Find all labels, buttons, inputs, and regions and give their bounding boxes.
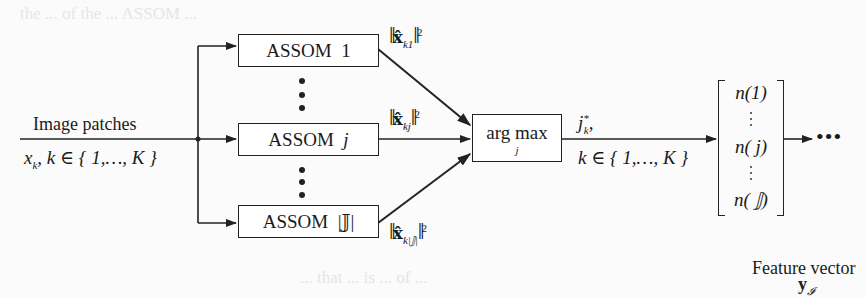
norm-label-J: ‖x̂k|𝕁|‖2 [389,218,427,247]
assom-block-index: |𝕁| [338,210,355,233]
norm-label-1: ‖x̂k1‖2 [389,22,423,50]
input-index-set: xk, k ∈ { 1,…, K } [24,146,157,171]
selector-output-index-set: k ∈ { 1,…, K } [578,146,688,169]
input-label: Image patches [33,114,136,135]
assom-block-index: j [343,129,348,151]
argmax-subscript: j [515,145,518,156]
argmax-block: arg max j [472,114,562,162]
input-set: , k ∈ { 1,…, K } [37,147,157,168]
vector-entry-j: n( j) [718,136,784,158]
continuation-dots-icon: ••• [816,124,842,150]
argmax-label: arg max [486,123,547,142]
assom-block-1: ASSOM 1 [238,34,379,67]
assom-block-J: ASSOM |𝕁| [238,205,379,238]
vertical-ellipsis-icon [750,112,752,130]
assom-block-name: ASSOM [263,211,328,233]
selector-output-label: j*k, [578,112,593,136]
vector-entry-J: n( 𝕁) [718,188,784,211]
norm-label-j: ‖x̂kj‖2 [389,104,420,132]
assom-block-name: ASSOM [268,129,333,151]
feature-vector-symbol: y𝓘 [798,274,814,298]
assom-block-index: 1 [341,40,351,62]
vector-entry-1: n(1) [718,82,784,104]
vertical-ellipsis-icon [750,166,752,184]
assom-block-name: ASSOM [266,40,331,62]
feature-vector: n(1) n( j) n( 𝕁) [718,80,784,216]
assom-block-j: ASSOM j [238,123,379,156]
